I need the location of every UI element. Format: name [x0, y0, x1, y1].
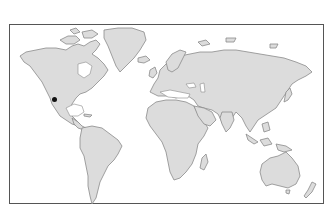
caspian-sea	[200, 83, 205, 92]
new-zealand	[304, 182, 316, 198]
world-map	[0, 0, 333, 213]
british-isles	[149, 67, 157, 78]
india	[220, 112, 234, 132]
madagascar	[200, 154, 208, 170]
caribbean-islands	[84, 114, 92, 117]
location-marker[interactable]	[52, 97, 57, 102]
north-america	[20, 40, 108, 126]
south-america	[80, 126, 122, 204]
iceland	[138, 56, 150, 63]
russian-arctic-islands	[198, 38, 278, 48]
tasmania	[286, 190, 290, 194]
greenland	[104, 28, 146, 72]
australia	[260, 152, 300, 188]
